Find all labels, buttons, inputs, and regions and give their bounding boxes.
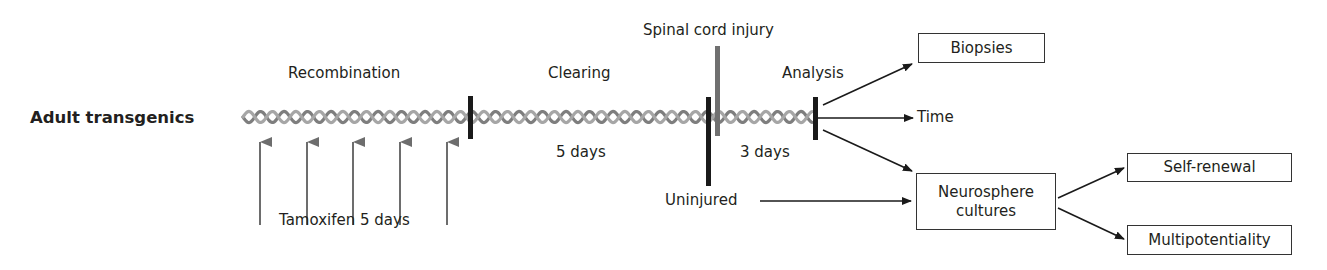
phase-recombination: Recombination <box>288 64 400 82</box>
spinal-cord-injury-marker <box>715 46 720 136</box>
output-time: Time <box>917 108 954 126</box>
recombination-end-marker <box>468 96 473 139</box>
box-multipotentiality-label: Multipotentiality <box>1148 231 1270 250</box>
phase-clearing: Clearing <box>548 64 610 82</box>
duration-post-injury: 3 days <box>740 143 790 161</box>
event-uninjured: Uninjured <box>665 191 737 209</box>
neurosphere-label-line2: cultures <box>956 202 1016 221</box>
duration-tamoxifen: Tamoxifen 5 days <box>279 211 410 229</box>
box-biopsies-label: Biopsies <box>950 39 1012 58</box>
box-self-renewal: Self-renewal <box>1127 153 1292 182</box>
box-neurosphere-cultures: Neurosphere cultures <box>916 173 1056 230</box>
duration-clearing: 5 days <box>556 143 606 161</box>
phase-analysis: Analysis <box>782 64 844 82</box>
arrow-to-multipotentiality <box>1058 208 1124 239</box>
box-biopsies: Biopsies <box>918 33 1045 63</box>
dna-helix-icon <box>243 112 812 123</box>
arrow-to-self-renewal <box>1058 168 1124 198</box>
uninjured-branch-marker <box>706 97 711 186</box>
neurosphere-label-line1: Neurosphere <box>938 183 1034 202</box>
arrow-to-neurosphere <box>823 130 912 171</box>
diagram-title: Adult transgenics <box>30 108 194 127</box>
event-spinal-cord-injury: Spinal cord injury <box>643 21 774 39</box>
box-self-renewal-label: Self-renewal <box>1163 158 1255 177</box>
box-multipotentiality: Multipotentiality <box>1127 225 1292 255</box>
